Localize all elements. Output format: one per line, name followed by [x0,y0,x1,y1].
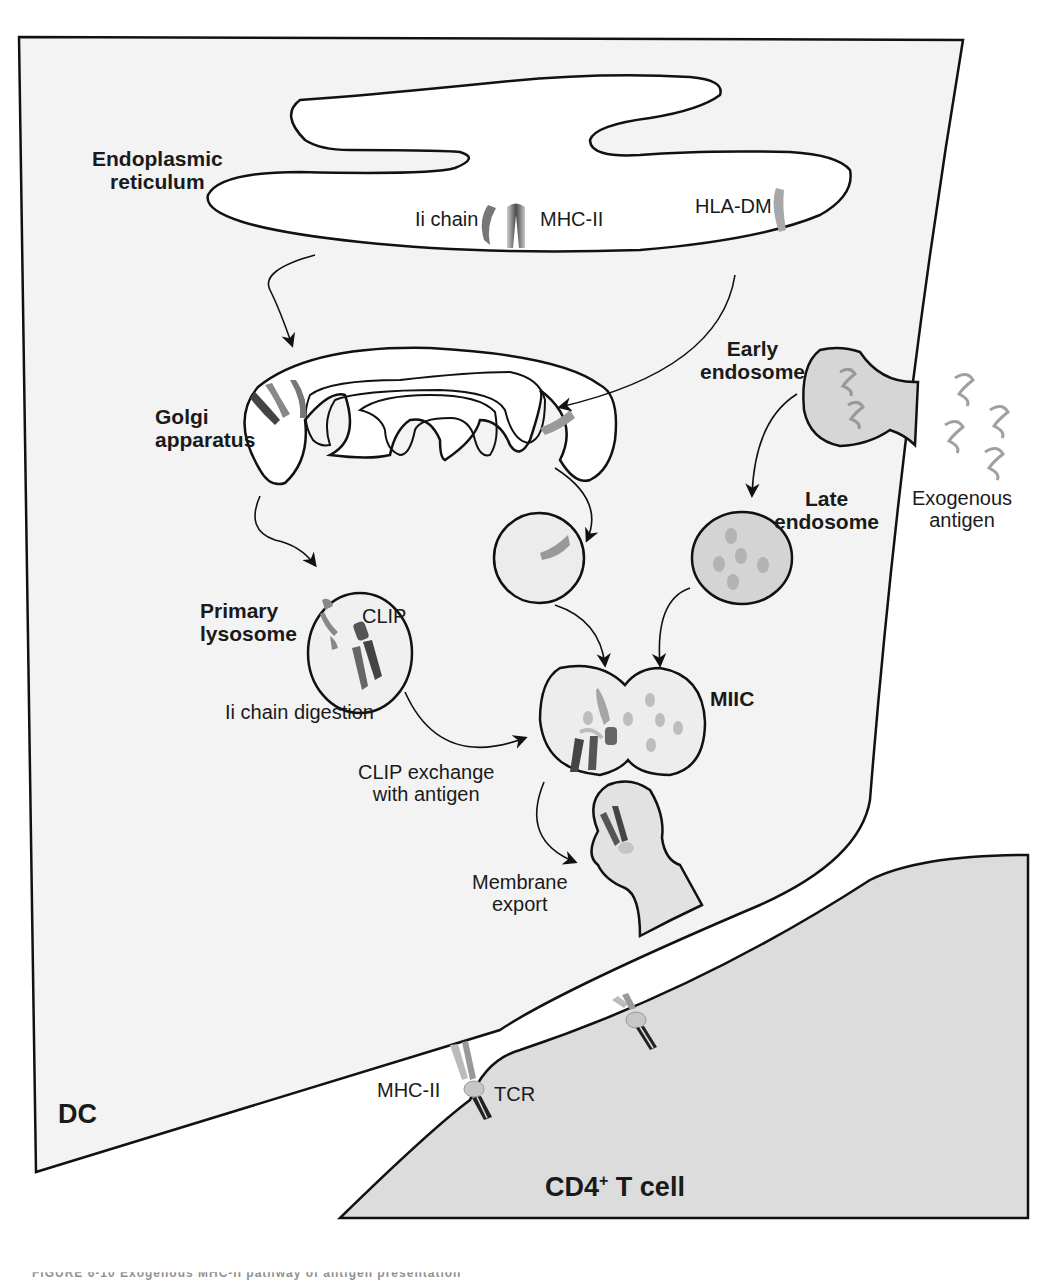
label-early-endosome: Early endosome [700,338,805,383]
label-hla-dm: HLA-DM [695,196,772,218]
label-golgi-apparatus: Golgi apparatus [155,406,255,451]
label-ii-chain-digestion: Ii chain digestion [225,702,374,724]
label-mhc-ii-er: MHC-II [540,209,603,231]
label-primary-lysosome: Primary lysosome [200,600,297,645]
transport-vesicle [494,513,584,603]
label-clip: CLIP [362,606,406,628]
label-membrane-export: Membrane export [472,872,568,915]
label-endoplasmic-reticulum: Endoplasmic reticulum [92,148,223,193]
label-ii-chain: Ii chain [415,209,478,231]
label-mhc-ii-synapse: MHC-II [377,1080,440,1102]
label-cd4-t-cell: CD4+ T cell [545,1172,685,1202]
exogenous-antigen-icons [945,374,1008,480]
label-dc: DC [58,1100,97,1129]
label-exogenous-antigen: Exogenous antigen [912,488,1012,531]
label-clip-exchange: CLIP exchange with antigen [358,762,494,805]
clip-released-icon [605,727,617,745]
label-tcr: TCR [494,1084,535,1106]
label-late-endosome: Late endosome [774,488,879,533]
miic-compartment [540,666,705,775]
label-miic: MIIC [710,688,754,711]
